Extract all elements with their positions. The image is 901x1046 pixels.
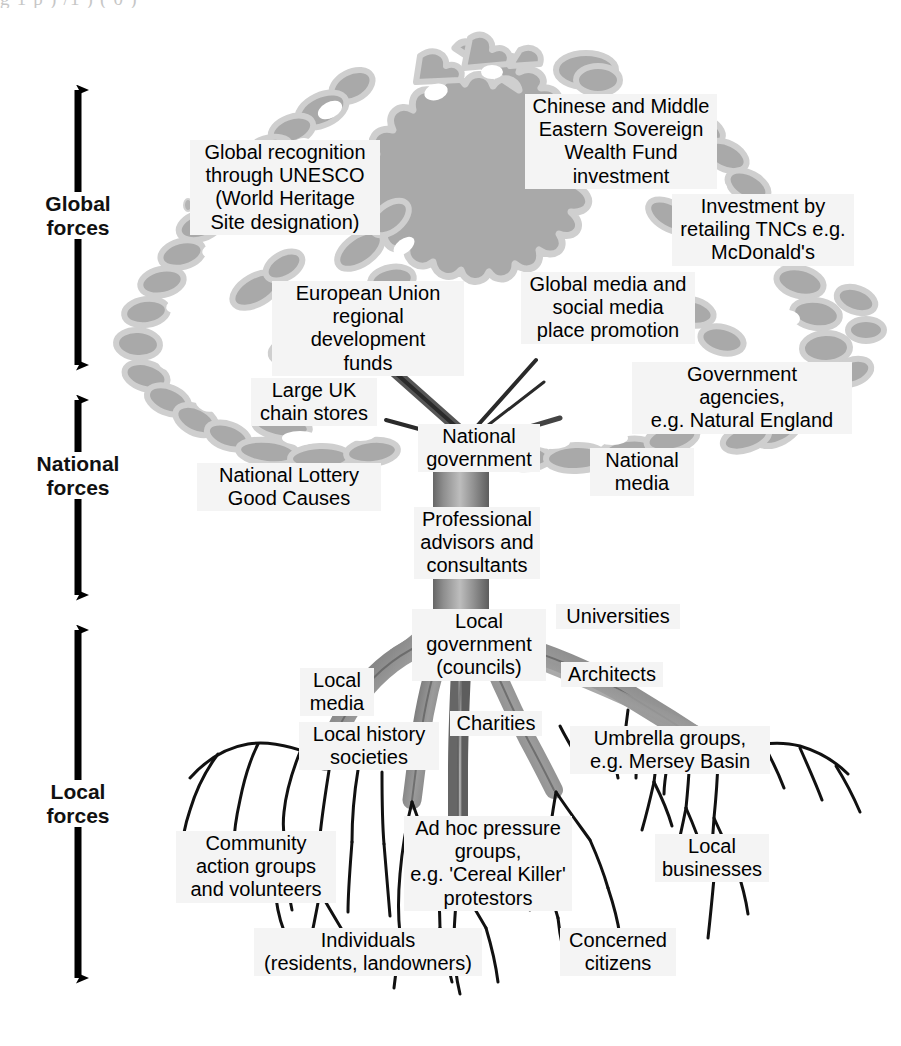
label-charities: Charities (450, 711, 542, 736)
label-umbrella-groups: Umbrella groups, e.g. Mersey Basin (570, 726, 770, 774)
axis-label-local: Local forces (22, 780, 134, 827)
diagram-page: g 1 p ) /1 ) ( 0 ) (0, 0, 901, 1046)
label-local-history: Local history societies (299, 722, 439, 770)
label-local-media: Local media (300, 668, 374, 716)
label-eu-funds: European Union regional development fund… (272, 281, 464, 376)
label-architects: Architects (561, 662, 663, 687)
label-universities: Universities (556, 604, 680, 629)
label-national-media: National media (590, 448, 694, 496)
label-global-media: Global media and social media place prom… (521, 272, 695, 344)
axis-label-national: National forces (14, 452, 142, 499)
label-retailing-tncs: Investment by retailing TNCs e.g. McDona… (672, 194, 854, 266)
label-sovereign-wealth: Chinese and Middle Eastern Sovereign Wea… (525, 94, 717, 189)
label-unesco: Global recognition through UNESCO (World… (190, 140, 380, 235)
axis-label-global: Global forces (22, 192, 134, 239)
label-community-action: Community action groups and volunteers (176, 831, 336, 903)
label-local-government: Local government (councils) (412, 609, 546, 681)
label-local-businesses: Local businesses (655, 834, 769, 882)
label-government-agencies: Government agencies, e.g. Natural Englan… (632, 362, 852, 434)
label-professional-advisors: Professional advisors and consultants (414, 507, 540, 579)
label-chain-stores: Large UK chain stores (251, 378, 377, 426)
label-concerned-citizens: Concerned citizens (560, 928, 676, 976)
label-national-lottery: National Lottery Good Causes (197, 463, 381, 511)
label-individuals: Individuals (residents, landowners) (254, 928, 482, 976)
label-national-government: National government (418, 424, 540, 472)
label-adhoc-pressure-groups: Ad hoc pressure groups, e.g. 'Cereal Kil… (404, 816, 572, 911)
